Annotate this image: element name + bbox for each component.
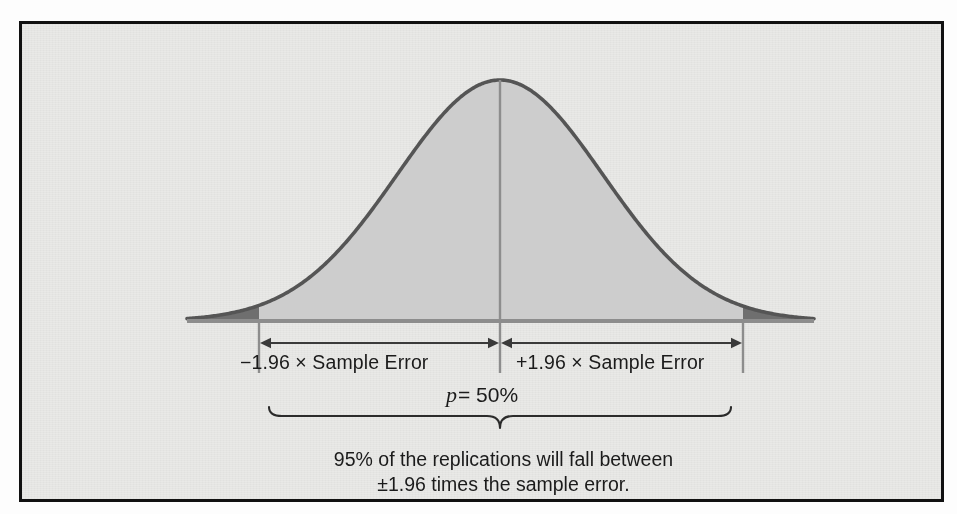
mean-probability-label: p= 50% (446, 382, 518, 408)
caption-line-2: ±1.96 times the sample error. (271, 472, 736, 497)
left-interval-arrow (260, 338, 499, 348)
p-symbol: p (446, 382, 458, 407)
confidence-interval-brace (269, 407, 731, 428)
normal-distribution-chart (22, 24, 941, 499)
caption-line-1: 95% of the replications will fall betwee… (271, 447, 736, 472)
right-interval-label: +1.96 × Sample Error (516, 351, 704, 374)
figure-panel: −1.96 × Sample Error +1.96 × Sample Erro… (19, 21, 944, 502)
left-interval-label: −1.96 × Sample Error (240, 351, 428, 374)
chart-caption: 95% of the replications will fall betwee… (271, 447, 736, 497)
p-value: = 50% (458, 383, 518, 406)
right-interval-arrow (501, 338, 742, 348)
figure-container: −1.96 × Sample Error +1.96 × Sample Erro… (0, 0, 957, 514)
